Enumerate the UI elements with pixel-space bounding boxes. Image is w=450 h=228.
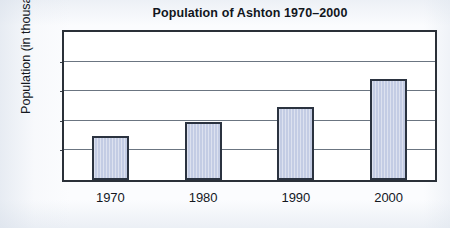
y-axis-title: Population (in thousands) — [19, 0, 33, 131]
bar-1970 — [92, 136, 129, 180]
x-tick-label-1990: 1990 — [261, 190, 331, 205]
plot-area — [62, 30, 437, 182]
gridline-8 — [64, 61, 435, 62]
x-tick-label-2000: 2000 — [354, 190, 424, 205]
bar-2000 — [370, 79, 407, 180]
chart-title: Population of Ashton 1970–2000 — [60, 6, 440, 20]
bar-1980 — [185, 122, 222, 180]
bar-1990 — [277, 107, 314, 180]
x-tick-label-1980: 1980 — [168, 190, 238, 205]
bar-chart-figure: Population of Ashton 1970–2000 Populatio… — [0, 0, 450, 228]
x-tick-label-1970: 1970 — [75, 190, 145, 205]
